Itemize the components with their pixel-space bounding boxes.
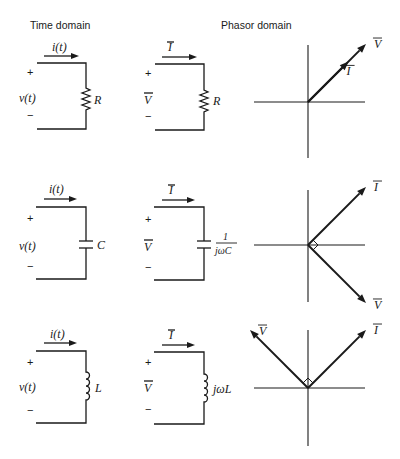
minus-sign: − xyxy=(145,403,151,415)
inductor-symbol xyxy=(154,352,208,424)
phasor-circuit-capacitor: I 1 jωC + V − xyxy=(144,183,237,280)
capacitor-wires xyxy=(36,207,86,279)
impedance-numerator: 1 xyxy=(223,231,228,242)
voltage-label: v(t) xyxy=(19,239,36,253)
component-label: R xyxy=(93,93,102,107)
current-arrow-head xyxy=(187,342,195,348)
inductor-symbol xyxy=(36,351,90,423)
capacitor-wires xyxy=(154,207,204,280)
current-label: i(t) xyxy=(52,40,67,54)
phasor-V-line xyxy=(308,245,360,297)
resistor-symbol xyxy=(155,64,208,130)
phasor-V-label: V xyxy=(259,324,268,338)
plus-sign: + xyxy=(145,213,151,225)
plus-sign: + xyxy=(27,66,33,78)
time-circuit-inductor: i(t) L + v(t) − xyxy=(19,327,102,423)
current-arrow-head xyxy=(69,196,77,202)
plus-sign: + xyxy=(27,212,33,224)
plus-sign: + xyxy=(27,356,33,368)
plus-sign: + xyxy=(145,67,151,79)
phasor-I-line xyxy=(308,336,360,388)
voltage-label: v(t) xyxy=(19,91,36,105)
row-resistor: i(t) R + v(t) − I R + V − VI xyxy=(19,37,383,158)
time-domain-header: Time domain xyxy=(30,19,90,31)
phasor-V-label: V xyxy=(374,37,383,51)
phasor-I-label: I xyxy=(373,180,379,194)
phasor-voltage-label: V xyxy=(144,93,153,107)
phasor-I-label: I xyxy=(373,323,379,337)
impedance-label: jωL xyxy=(211,382,232,396)
component-label: L xyxy=(94,381,102,395)
impedance-label: R xyxy=(212,94,221,108)
current-arrow-head xyxy=(189,54,197,60)
minus-sign: − xyxy=(145,261,151,273)
component-label: C xyxy=(97,238,106,252)
time-circuit-capacitor: i(t) C + v(t) − xyxy=(19,182,106,279)
phasor-diagram-capacitor: VI xyxy=(254,180,383,312)
current-label: i(t) xyxy=(50,327,65,341)
time-circuit-resistor: i(t) R + v(t) − xyxy=(19,40,102,129)
phasor-I-label: I xyxy=(346,64,352,78)
phasor-circuit-inductor: I jωL + V − xyxy=(144,328,232,424)
phasor-V-label: V xyxy=(374,298,383,312)
phasor-I-line xyxy=(308,193,360,245)
minus-sign: − xyxy=(27,260,33,272)
phasor-voltage-label: V xyxy=(144,240,153,254)
phasor-domain-header: Phasor domain xyxy=(221,19,292,31)
minus-sign: − xyxy=(27,109,33,121)
phasor-voltage-label: V xyxy=(144,381,153,395)
voltage-label: v(t) xyxy=(19,380,36,394)
current-arrow-head xyxy=(187,197,195,203)
phasor-V-line xyxy=(256,336,308,388)
phasor-I-line xyxy=(308,68,342,102)
resistor-symbol xyxy=(37,63,90,129)
impedance-denominator: jωC xyxy=(213,245,232,256)
current-arrow-head xyxy=(71,53,79,59)
minus-sign: − xyxy=(145,110,151,122)
row-inductor: i(t) L + v(t) − I jωL + V − VI xyxy=(19,323,382,446)
phasor-diagram-inductor: VI xyxy=(250,323,382,446)
plus-sign: + xyxy=(145,356,151,368)
circuit-phasor-figure: Time domain Phasor domain i(t) R + v(t) … xyxy=(0,0,400,459)
phasor-circuit-resistor: I R + V − xyxy=(144,40,221,130)
current-arrow-head xyxy=(69,340,77,346)
row-capacitor: i(t) C + v(t) − I 1 jωC + V − VI xyxy=(19,180,383,312)
current-label: i(t) xyxy=(49,182,64,196)
minus-sign: − xyxy=(27,404,33,416)
phasor-diagram-resistor: VI xyxy=(254,37,383,158)
